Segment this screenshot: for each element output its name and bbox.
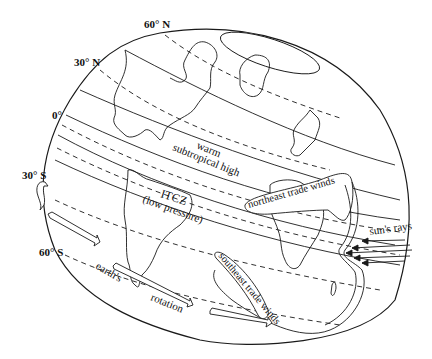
latitude-label-30n-text: 30° N xyxy=(74,57,100,68)
polar-cell-ellipse xyxy=(216,24,324,83)
greenland-outline xyxy=(240,55,270,97)
latitude-label-60n: 60° N xyxy=(144,19,170,30)
dashed-line-south-30 xyxy=(55,200,380,290)
latitude-label-equator: 0° xyxy=(52,110,62,121)
earths-label: earth's xyxy=(94,259,124,284)
globe-diagram: warm subtropical high ITCZ (low pressure… xyxy=(0,0,432,359)
latitude-line-north-60 xyxy=(125,50,395,165)
dashed-line-north-60 xyxy=(165,35,340,118)
latitude-label-30s: 30° S xyxy=(22,170,46,181)
rotation-arrow-1 xyxy=(48,212,100,246)
latitude-label-60s: 60° S xyxy=(39,247,63,258)
rotation-curl-arrow xyxy=(37,182,48,210)
europe-outline xyxy=(291,110,320,156)
madagascar-outline xyxy=(331,282,336,295)
suns-rays-label: sun's rays xyxy=(369,219,413,237)
south-america-outline xyxy=(124,170,192,287)
